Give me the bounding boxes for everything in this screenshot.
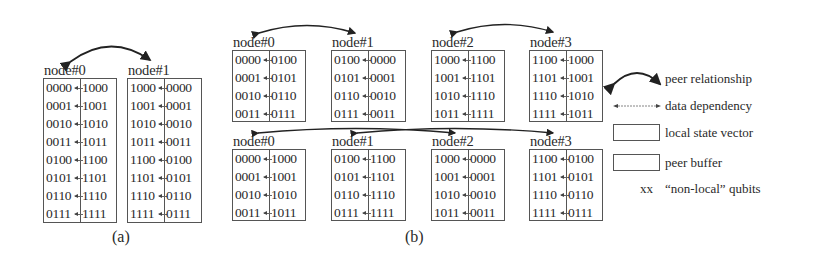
- peer-relationship-icon: [614, 73, 660, 84]
- local-index: 0011: [235, 204, 260, 222]
- amplitude-row: 01111111: [332, 204, 405, 222]
- local-index: 0011: [235, 105, 260, 123]
- amplitude-row: 11001000: [530, 51, 602, 69]
- local-index: 0001: [235, 168, 261, 186]
- amplitude-row: 00110111: [233, 105, 305, 123]
- amplitude-row: 10101110: [432, 87, 504, 105]
- amplitude-row: 11111011: [530, 105, 602, 123]
- data-dependency-icon: [613, 104, 661, 108]
- node-label: node#3: [530, 35, 572, 49]
- state-vector-b1-node0: 00001000000110010010101000111011: [232, 149, 306, 221]
- peer-index: 0001: [370, 69, 396, 87]
- local-index: 0000: [46, 79, 72, 97]
- peer-index: 0101: [166, 169, 192, 187]
- node-label: node#2: [432, 35, 474, 49]
- peer-index: 0101: [568, 168, 594, 186]
- peer-index: 1100: [82, 151, 107, 169]
- non-local-marker: xx: [640, 181, 653, 197]
- local-index: 0110: [334, 87, 359, 105]
- local-index: 0100: [334, 51, 360, 69]
- local-index: 1100: [532, 51, 557, 69]
- node-label: node#1: [332, 35, 374, 49]
- peer-index: 0100: [568, 150, 594, 168]
- peer-index: 0001: [470, 168, 496, 186]
- peer-index: 1011: [271, 204, 296, 222]
- peer-index: 1001: [568, 69, 594, 87]
- local-index: 1101: [532, 69, 557, 87]
- node-label: node#2: [432, 134, 474, 148]
- local-index: 1110: [130, 187, 155, 205]
- peer-buffer-icon: [613, 154, 660, 171]
- local-index: 1001: [130, 97, 156, 115]
- local-index: 1010: [434, 186, 460, 204]
- peer-index: 0000: [166, 79, 192, 97]
- local-index: 1100: [130, 151, 155, 169]
- local-index: 0110: [46, 187, 71, 205]
- node-label: node#1: [332, 134, 374, 148]
- local-index: 1010: [434, 87, 460, 105]
- amplitude-row: 10001100: [432, 51, 504, 69]
- amplitude-row: 11010101: [530, 168, 602, 186]
- amplitude-row: 10011101: [432, 69, 504, 87]
- legend-peer-relationship: peer relationship: [665, 71, 752, 87]
- local-index: 0101: [334, 168, 360, 186]
- amplitude-row: 01101110: [44, 187, 116, 205]
- peer-index: 0110: [271, 87, 296, 105]
- peer-index: 0000: [470, 150, 496, 168]
- local-index: 1111: [532, 105, 556, 123]
- local-index: 1001: [434, 168, 460, 186]
- local-index: 0001: [235, 69, 261, 87]
- local-index: 1011: [434, 204, 459, 222]
- local-index: 0111: [334, 105, 359, 123]
- local-index: 0010: [235, 186, 261, 204]
- amplitude-row: 10110011: [432, 204, 504, 222]
- node-label: node#1: [128, 63, 170, 77]
- amplitude-row: 11110111: [530, 204, 602, 222]
- peer-index: 0111: [271, 105, 296, 123]
- amplitude-row: 10111111: [432, 105, 504, 123]
- amplitude-row: 10000000: [128, 79, 201, 97]
- amplitude-row: 00011001: [44, 97, 116, 115]
- peer-index: 1101: [470, 69, 495, 87]
- peer-index: 0011: [370, 105, 395, 123]
- local-index: 1001: [434, 69, 460, 87]
- peer-index: 0101: [271, 69, 297, 87]
- peer-index: 0100: [166, 151, 192, 169]
- peer-index: 1111: [470, 105, 494, 123]
- amplitude-row: 00010101: [233, 69, 305, 87]
- peer-index: 0111: [568, 204, 593, 222]
- peer-index: 1000: [82, 79, 108, 97]
- peer-index: 0010: [370, 87, 396, 105]
- amplitude-row: 10100010: [432, 186, 504, 204]
- local-index: 0111: [334, 204, 359, 222]
- peer-index: 1101: [370, 168, 395, 186]
- peer-index: 1110: [370, 186, 395, 204]
- amplitude-row: 11101010: [530, 87, 602, 105]
- peer-arc-a: [70, 46, 150, 62]
- amplitude-row: 00100110: [233, 87, 305, 105]
- caption-b: (b): [405, 228, 424, 246]
- local-index: 1000: [434, 150, 460, 168]
- peer-index: 1000: [271, 150, 297, 168]
- state-vector-b1-node3: 11000100110101011110011011110111: [529, 149, 603, 221]
- amplitude-row: 00001000: [233, 150, 305, 168]
- amplitude-row: 11100110: [530, 186, 602, 204]
- local-index: 1011: [434, 105, 459, 123]
- node-label: node#0: [44, 63, 86, 77]
- amplitude-row: 01010001: [332, 69, 405, 87]
- local-index: 1111: [532, 204, 556, 222]
- peer-index: 0010: [166, 115, 192, 133]
- node-label: node#0: [233, 35, 275, 49]
- amplitude-row: 10000000: [432, 150, 504, 168]
- peer-index: 1111: [370, 204, 394, 222]
- peer-index: 1001: [271, 168, 297, 186]
- peer-index: 1100: [370, 150, 395, 168]
- legend-peer-buffer: peer buffer: [665, 155, 722, 171]
- amplitude-row: 01111111: [44, 205, 116, 223]
- node-label: node#3: [530, 134, 572, 148]
- local-index: 0100: [334, 150, 360, 168]
- peer-index: 1010: [568, 87, 594, 105]
- amplitude-row: 01011101: [332, 168, 405, 186]
- local-index: 0110: [334, 186, 359, 204]
- peer-index: 0011: [470, 204, 495, 222]
